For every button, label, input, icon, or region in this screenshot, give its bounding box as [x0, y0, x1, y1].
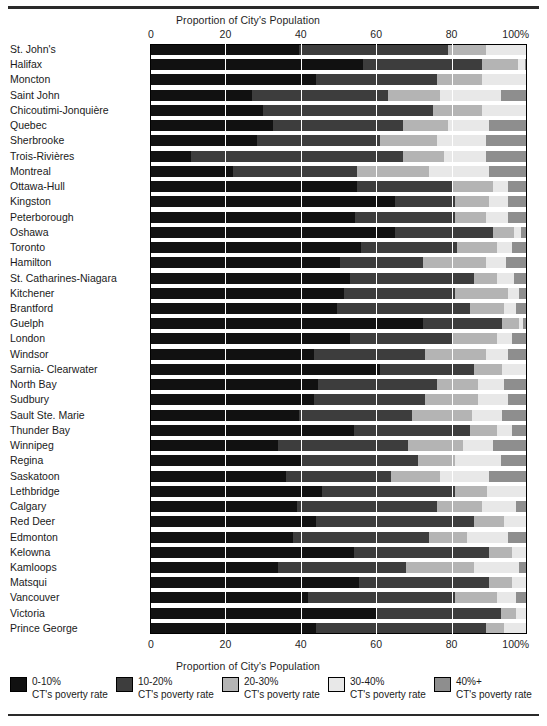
bar-row — [150, 135, 527, 146]
axis-title-top: Proportion of City's Population — [176, 14, 320, 26]
bar-segment — [403, 151, 444, 162]
legend-label: 20-30%CT's poverty rate — [244, 676, 320, 701]
city-label: Sudbury — [10, 394, 146, 405]
bar-segment — [497, 242, 512, 253]
bar-segment — [278, 440, 408, 451]
city-label: Kitchener — [10, 288, 146, 299]
bar-row — [150, 257, 527, 268]
legend-label-range: 20-30% — [244, 676, 320, 689]
bar-row — [150, 532, 527, 543]
bar-row — [150, 562, 527, 573]
bar-segment — [455, 288, 508, 299]
city-label: Winnipeg — [10, 440, 146, 451]
bar-segment — [150, 44, 299, 55]
bar-segment — [318, 379, 437, 390]
bar-segment — [299, 44, 448, 55]
bar-row — [150, 166, 527, 177]
bar-row — [150, 623, 527, 634]
bar-segment — [150, 394, 314, 405]
city-label: Guelph — [10, 318, 146, 329]
bar-row — [150, 394, 527, 405]
bar-row — [150, 151, 527, 162]
bar-segment — [508, 349, 527, 360]
bar-segment — [504, 379, 527, 390]
bar-segment — [150, 379, 318, 390]
bar-segment — [150, 318, 423, 329]
city-label: Chicoutimi-Jonquière — [10, 105, 146, 116]
bar-row — [150, 577, 527, 588]
bar-segment — [493, 227, 514, 238]
bar-segment — [316, 516, 474, 527]
bar-segment — [504, 516, 527, 527]
bar-segment — [429, 166, 489, 177]
bar-segment — [344, 288, 455, 299]
bar-segment — [474, 516, 504, 527]
bar-segment — [191, 151, 402, 162]
bar-segment — [508, 196, 527, 207]
bar-segment — [448, 120, 489, 131]
bar-segment — [497, 425, 512, 436]
city-label: Kingston — [10, 196, 146, 207]
city-label: Saskatoon — [10, 471, 146, 482]
bar-segment — [150, 410, 299, 421]
bar-row — [150, 547, 527, 558]
bar-segment — [502, 318, 519, 329]
bar-row — [150, 592, 527, 603]
bar-segment — [257, 135, 380, 146]
bar-segment — [437, 379, 478, 390]
bar-segment — [512, 577, 527, 588]
bar-row — [150, 288, 527, 299]
bar-segment — [286, 471, 392, 482]
bar-segment — [150, 577, 359, 588]
city-label: Saint John — [10, 90, 146, 101]
bar-segment — [391, 471, 440, 482]
bar-row — [150, 74, 527, 85]
bar-row — [150, 379, 527, 390]
bar-segment — [501, 608, 516, 619]
bar-segment — [425, 394, 478, 405]
bar-segment — [150, 212, 355, 223]
bar-segment — [380, 135, 437, 146]
city-label: Oshawa — [10, 227, 146, 238]
bar-segment — [357, 166, 429, 177]
bar-segment — [470, 425, 496, 436]
bar-row — [150, 90, 527, 101]
bar-segment — [412, 410, 472, 421]
bar-segment — [514, 273, 527, 284]
bar-segment — [455, 196, 489, 207]
bar-segment — [489, 196, 508, 207]
bar-segment — [486, 151, 527, 162]
legend-label-range: 40%+ — [456, 676, 532, 689]
bar-segment — [493, 181, 508, 192]
legend-item: 40%+CT's poverty rate — [434, 676, 539, 710]
bar-segment — [150, 425, 354, 436]
bar-segment — [150, 547, 354, 558]
city-label: Kelowna — [10, 547, 146, 558]
bar-segment — [299, 410, 412, 421]
bar-segment — [508, 212, 527, 223]
bar-row — [150, 440, 527, 451]
bar-segment — [150, 181, 357, 192]
legend-swatch-30-40 — [328, 677, 345, 692]
bar-segment — [297, 501, 436, 512]
legend-item: 0-10%CT's poverty rate — [10, 676, 115, 710]
bar-segment — [489, 166, 527, 177]
bar-segment — [482, 74, 527, 85]
legend-label-range: 10-20% — [138, 676, 214, 689]
bar-segment — [482, 59, 518, 70]
bar-segment — [355, 212, 455, 223]
bar-segment — [448, 44, 486, 55]
city-label: Matsqui — [10, 577, 146, 588]
bar-row — [150, 59, 527, 70]
x-tick-label: 80 — [446, 638, 458, 650]
bar-segment — [150, 364, 380, 375]
bar-segment — [150, 501, 297, 512]
legend-swatch-0-10 — [10, 677, 27, 692]
bar-segment — [489, 471, 527, 482]
bar-segment — [516, 592, 527, 603]
chart-legend: 0-10%CT's poverty rate10-20%CT's poverty… — [10, 676, 540, 710]
bar-segment — [150, 257, 340, 268]
bar-segment — [455, 455, 500, 466]
bar-segment — [497, 273, 514, 284]
city-label: Sherbrooke — [10, 135, 146, 146]
